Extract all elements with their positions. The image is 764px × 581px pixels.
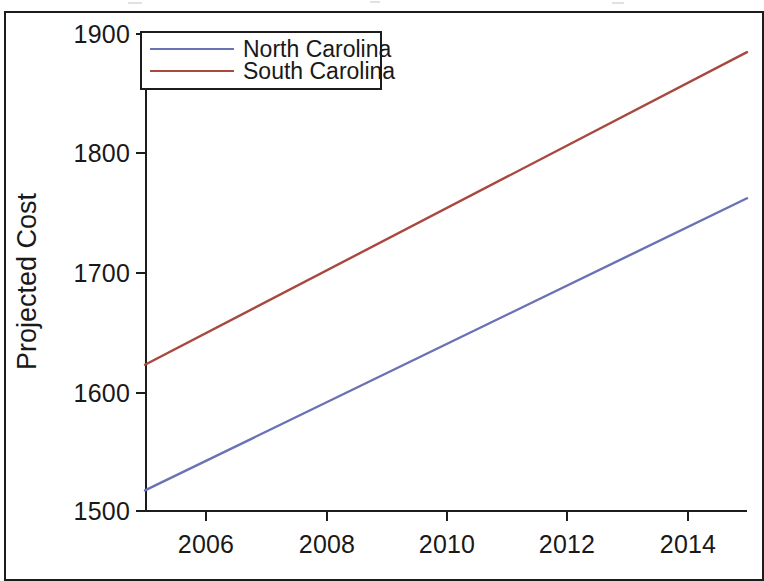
x-tick-2012: 2012 xyxy=(566,512,568,521)
y-tick-1700: 1700 xyxy=(136,272,145,274)
legend: North Carolina South Carolina xyxy=(140,31,382,90)
y-axis-title: Projected Cost xyxy=(8,0,48,563)
x-tick-2010: 2010 xyxy=(446,512,448,521)
y-tick-1600: 1600 xyxy=(136,392,145,394)
legend-swatch-north-carolina xyxy=(150,48,234,50)
y-tick-label: 1800 xyxy=(74,139,130,168)
x-tick-2008: 2008 xyxy=(326,512,328,521)
legend-label: South Carolina xyxy=(243,60,395,83)
scan-artifact xyxy=(612,2,624,4)
series-line-south-carolina xyxy=(145,52,747,365)
legend-swatch-south-carolina xyxy=(150,70,234,72)
y-tick-label: 1900 xyxy=(74,20,130,49)
scan-artifact xyxy=(370,1,380,3)
legend-item-north-carolina: North Carolina xyxy=(150,38,372,60)
y-tick-label: 1500 xyxy=(74,497,130,526)
x-tick-label: 2014 xyxy=(660,530,716,559)
y-tick-1500: 1500 xyxy=(136,510,145,512)
scan-artifact xyxy=(128,2,142,4)
y-axis-title-text: Projected Cost xyxy=(13,193,44,370)
legend-item-south-carolina: South Carolina xyxy=(150,60,372,82)
plot-area: 1900 1800 1700 1600 1500 2006 2008 2010 … xyxy=(145,33,747,512)
x-tick-label: 2012 xyxy=(539,530,595,559)
x-tick-2014: 2014 xyxy=(687,512,689,521)
y-tick-label: 1600 xyxy=(74,379,130,408)
x-tick-2006: 2006 xyxy=(205,512,207,521)
y-tick-1800: 1800 xyxy=(136,152,145,154)
x-tick-label: 2006 xyxy=(178,530,234,559)
y-tick-label: 1700 xyxy=(74,259,130,288)
x-tick-label: 2010 xyxy=(419,530,475,559)
series-line-north-carolina xyxy=(145,198,747,490)
x-tick-label: 2008 xyxy=(299,530,355,559)
series-lines xyxy=(145,33,747,512)
